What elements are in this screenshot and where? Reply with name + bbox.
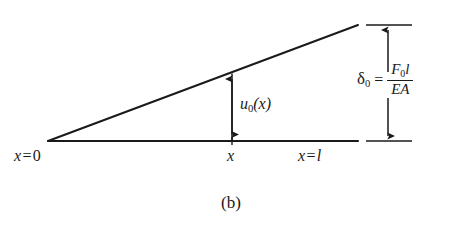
figure-b-axial-displacement: x = 0 x x = l u0(x) δ0 = F0l EA (b) — [0, 0, 462, 235]
label-delta-symbol-group: δ0 — [357, 70, 370, 90]
label-x-station: x — [227, 148, 234, 164]
numerator-force-symbol: F — [391, 61, 400, 77]
figure-caption: (b) — [0, 194, 462, 211]
label-u0x-argument: (x) — [253, 95, 271, 112]
label-x-station-var: x — [227, 147, 234, 164]
label-x-equals-zero: x = 0 — [14, 148, 41, 164]
label-displacement-function: u0(x) — [240, 96, 271, 115]
elongation-fraction: F0l EA — [387, 62, 413, 98]
fraction-numerator: F0l — [389, 62, 411, 80]
delta-icon: δ — [357, 69, 365, 88]
numerator-length-symbol: l — [405, 61, 409, 77]
label-u0x-func: u — [240, 95, 248, 112]
label-x-equals-l: x = l — [298, 148, 321, 164]
label-elongation-equation: δ0 = F0l EA — [357, 62, 413, 98]
fraction-denominator: EA — [389, 81, 411, 98]
label-x-zero-value: 0 — [33, 147, 41, 164]
displacement-slope-line — [48, 25, 358, 141]
label-x-ell-value: l — [317, 147, 321, 164]
label-delta-relation: = — [374, 72, 383, 88]
label-delta-subscript: 0 — [365, 78, 370, 89]
